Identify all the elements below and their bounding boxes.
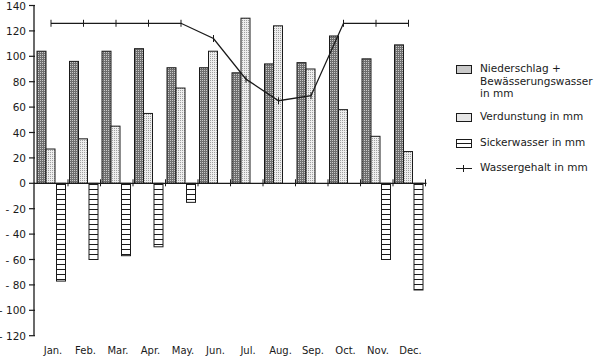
legend-item-precipitation: Niederschlag + Bewässerungswasser in mm: [456, 62, 598, 100]
precipitation-bar: [395, 45, 404, 183]
month-label: Mar.: [107, 345, 128, 356]
month-label: Sep.: [302, 345, 324, 356]
evaporation-bar: [339, 110, 348, 184]
month-label: Dec.: [399, 345, 422, 356]
month-label: Feb.: [75, 345, 96, 356]
precipitation-bar: [70, 61, 79, 183]
month-label: Apr.: [141, 345, 161, 356]
evaporation-bar: [404, 152, 413, 184]
percolation-bar: [57, 183, 66, 281]
percolation-bar: [122, 183, 131, 255]
month-label: Jul.: [239, 345, 255, 356]
y-tick-label: - 80: [6, 279, 27, 291]
y-tick-label: 20: [13, 152, 26, 164]
month-label: Jun.: [205, 345, 225, 356]
precipitation-bar: [200, 68, 209, 184]
precipitation-bar: [362, 59, 371, 183]
percolation-bar: [187, 183, 196, 202]
month-labels: Jan.Feb.Mar.Apr.May.Jun.Jul.Aug.Sep.Oct.…: [43, 345, 422, 356]
month-label: Jan.: [43, 345, 63, 356]
y-tick-label: 40: [13, 127, 26, 139]
month-label: Nov.: [367, 345, 389, 356]
y-tick-label: 60: [13, 101, 26, 113]
y-tick-label: - 60: [6, 254, 27, 266]
water-balance-chart: 140120100806040200- 20- 40- 60- 80- 100-…: [0, 0, 599, 359]
hatched-swatch-icon: [456, 139, 472, 148]
evaporation-bar: [371, 136, 380, 183]
evaporation-bar: [274, 26, 283, 183]
dark-stipple-swatch-icon: [456, 65, 472, 74]
evaporation-bar: [209, 51, 218, 183]
y-axis: 140120100806040200- 20- 40- 60- 80- 100-…: [0, 0, 35, 342]
percolation-bar: [154, 183, 163, 247]
y-tick-label: - 120: [0, 330, 26, 342]
legend-label: Sickerwasser in mm: [480, 136, 598, 149]
y-tick-label: - 20: [6, 203, 27, 215]
evaporation-bar: [46, 149, 55, 183]
evaporation-bar: [241, 18, 250, 183]
precipitation-bar: [135, 49, 144, 184]
percolation-bar: [382, 183, 391, 259]
legend-item-water-content: Wassergehalt in mm: [456, 161, 598, 174]
month-label: May.: [172, 345, 194, 356]
y-tick-label: 0: [19, 177, 26, 189]
legend-item-evaporation: Verdunstung in mm: [456, 110, 598, 123]
precipitation-bar: [232, 73, 241, 183]
evaporation-bar: [306, 69, 315, 183]
percolation-bar: [414, 183, 423, 290]
month-label: Oct.: [335, 345, 355, 356]
percolation-bar: [89, 183, 98, 259]
month-label: Aug.: [269, 345, 292, 356]
precipitation-bar: [265, 64, 274, 183]
evaporation-bar: [79, 139, 88, 183]
line-with-tick-marker-icon: [456, 164, 472, 173]
evaporation-bar: [144, 113, 153, 183]
evaporation-bar: [111, 126, 120, 183]
y-tick-label: 100: [6, 50, 26, 62]
legend-label: Niederschlag + Bewässerungswasser in mm: [480, 62, 598, 100]
precipitation-bar: [102, 51, 111, 183]
precipitation-bar: [167, 68, 176, 184]
precipitation-bar: [297, 63, 306, 184]
legend-label: Wassergehalt in mm: [480, 161, 598, 174]
y-tick-label: 80: [13, 76, 26, 88]
y-tick-label: 120: [6, 25, 26, 37]
evaporation-bar: [176, 88, 185, 183]
precipitation-bar: [37, 51, 46, 183]
y-tick-label: 140: [6, 0, 26, 12]
y-tick-label: - 40: [6, 228, 27, 240]
precipitation-bar: [330, 36, 339, 183]
legend-item-percolation: Sickerwasser in mm: [456, 136, 598, 149]
light-stipple-swatch-icon: [456, 113, 472, 122]
legend-label: Verdunstung in mm: [480, 110, 598, 123]
y-tick-label: - 100: [0, 304, 26, 316]
